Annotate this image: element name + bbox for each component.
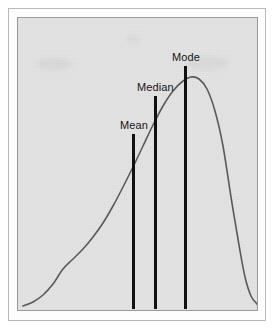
marker-label-mode: Mode (172, 51, 200, 63)
distribution-curve (18, 18, 258, 311)
marker-line-median (154, 96, 157, 309)
figure-root: Mean Median Mode (0, 0, 275, 334)
marker-line-mode (184, 66, 187, 309)
marker-line-mean (132, 134, 135, 309)
marker-label-mean: Mean (120, 119, 148, 131)
marker-label-median: Median (137, 81, 174, 93)
plot-panel: Mean Median Mode (17, 17, 258, 311)
